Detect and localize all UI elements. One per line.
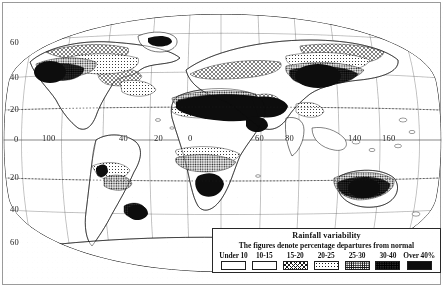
legend-scale: Under 10 10-15 15-20 20-25 25-30 30-40 [216, 252, 437, 271]
legend-swatch-25-30 [345, 261, 370, 270]
legend-item-30-40: 30-40 [372, 252, 403, 271]
legend-item-20-25: 20-25 [311, 252, 342, 271]
lat-label-60s: 60 [10, 237, 19, 247]
legend-subtitle: The figures denote percentage departures… [216, 241, 437, 251]
legend-label-15-20: 15-20 [287, 252, 304, 261]
lon-label-0: 0 [188, 133, 192, 143]
legend-item-10-15: 10-15 [249, 252, 280, 271]
legend-swatch-15-20 [283, 261, 308, 270]
lon-label-80e: 80 [285, 133, 294, 143]
scanned-map-page: 60 40 20 0 20 40 60 100 40 20 0 60 80 14… [0, 0, 443, 287]
lat-label-equator: 0 [14, 134, 18, 144]
legend-swatch-20-25 [314, 261, 339, 270]
legend-label-20-25: 20-25 [318, 252, 335, 261]
lat-label-60n: 60 [10, 37, 19, 47]
lon-label-140e: 140 [348, 133, 361, 143]
lat-label-40n: 40 [10, 72, 19, 82]
lon-label-20w: 20 [154, 133, 163, 143]
lat-label-40s: 40 [10, 204, 19, 214]
legend-swatch-10-15 [252, 261, 277, 270]
legend-item-15-20: 15-20 [280, 252, 311, 271]
legend-swatch-30-40 [375, 261, 400, 270]
legend-label-10-15: 10-15 [256, 252, 273, 261]
lon-label-100w: 100 [42, 133, 55, 143]
lon-label-40w: 40 [119, 133, 128, 143]
legend-title: Rainfall variability [216, 231, 437, 241]
legend-item-under-10: Under 10 [218, 252, 249, 271]
lat-label-20s: 20 [10, 172, 19, 182]
legend-label-under-10: Under 10 [219, 252, 247, 261]
map-legend: Rainfall variability The figures denote … [212, 228, 441, 273]
legend-label-25-30: 25-30 [349, 252, 366, 261]
lon-label-60e: 60 [255, 133, 264, 143]
lat-label-20n: 20 [10, 104, 19, 114]
legend-swatch-under-10 [221, 261, 246, 270]
legend-item-over-40: Over 40% [403, 252, 435, 271]
lon-label-160e: 160 [382, 133, 395, 143]
legend-label-over-40: Over 40% [403, 252, 435, 261]
legend-swatch-over-40 [407, 261, 432, 270]
legend-label-30-40: 30-40 [380, 252, 397, 261]
legend-item-25-30: 25-30 [342, 252, 373, 271]
